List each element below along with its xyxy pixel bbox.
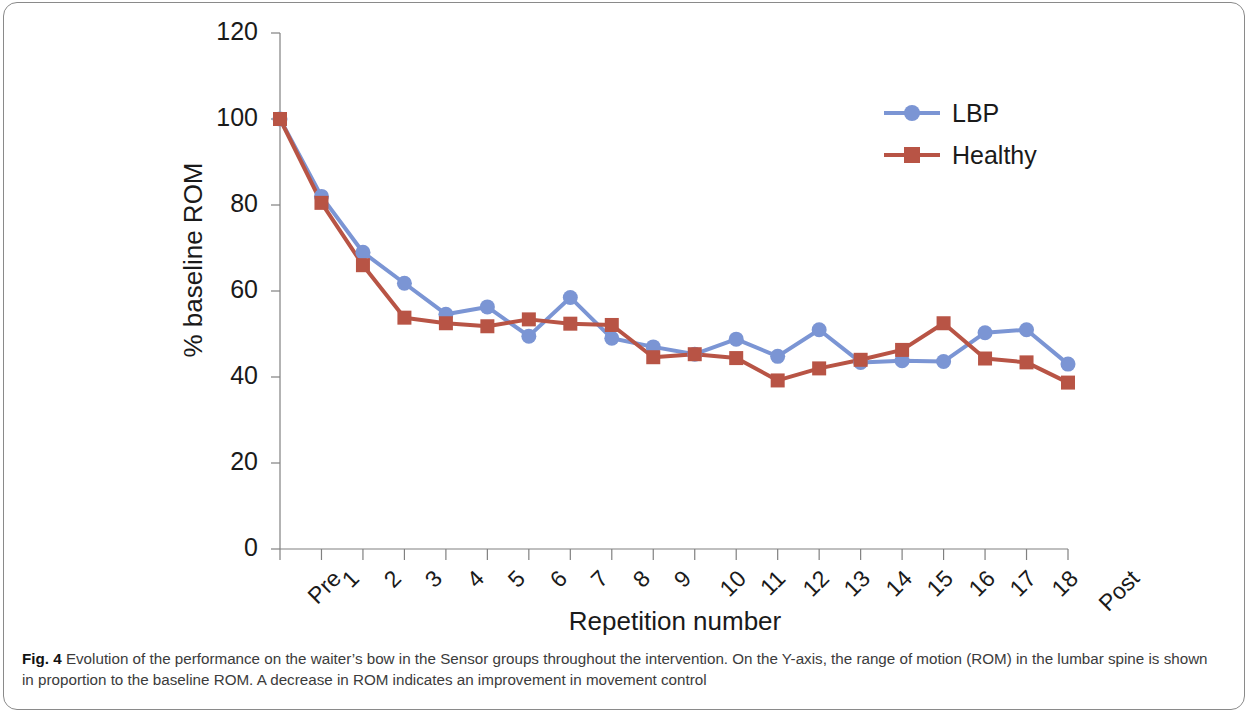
data-point-healthy xyxy=(480,319,494,333)
data-point-lbp xyxy=(604,331,619,346)
data-point-healthy xyxy=(522,312,536,326)
figure-container: 020406080100120 Pre123456789101112131415… xyxy=(0,0,1248,714)
data-point-lbp xyxy=(563,290,578,305)
figure-caption: Fig. 4 Evolution of the performance on t… xyxy=(22,648,1218,690)
legend-marker-square-icon xyxy=(904,147,920,163)
data-point-healthy xyxy=(812,361,826,375)
data-point-healthy xyxy=(439,316,453,330)
data-point-lbp xyxy=(729,332,744,347)
data-point-healthy xyxy=(729,351,743,365)
data-point-healthy xyxy=(771,373,785,387)
legend-swatch-lbp xyxy=(884,103,940,123)
data-point-healthy xyxy=(314,196,328,210)
data-point-lbp xyxy=(397,276,412,291)
y-axis-tick-label: 120 xyxy=(188,17,258,46)
legend-label: Healthy xyxy=(952,141,1037,170)
data-point-lbp xyxy=(770,349,785,364)
y-axis-title-label: % baseline ROM xyxy=(178,50,209,470)
data-point-healthy xyxy=(978,352,992,366)
legend-item-healthy[interactable]: Healthy xyxy=(884,134,1104,176)
data-point-healthy xyxy=(563,317,577,331)
data-point-lbp xyxy=(480,299,495,314)
data-point-lbp xyxy=(812,322,827,337)
figure-caption-body: Evolution of the performance on the wait… xyxy=(22,650,1208,688)
data-point-healthy xyxy=(273,112,287,126)
data-point-lbp xyxy=(978,325,993,340)
data-point-lbp xyxy=(521,329,536,344)
figure-caption-number: Fig. 4 xyxy=(22,650,62,667)
data-point-healthy xyxy=(646,350,660,364)
data-point-healthy xyxy=(688,347,702,361)
data-point-lbp xyxy=(355,245,370,260)
data-point-healthy xyxy=(1020,355,1034,369)
legend-item-lbp[interactable]: LBP xyxy=(884,92,1104,134)
data-point-healthy xyxy=(854,353,868,367)
x-axis-title: Repetition number xyxy=(280,606,1070,637)
data-point-healthy xyxy=(937,316,951,330)
data-point-healthy xyxy=(895,343,909,357)
data-point-lbp xyxy=(936,354,951,369)
data-point-lbp xyxy=(1061,357,1076,372)
data-point-healthy xyxy=(356,258,370,272)
data-point-healthy xyxy=(1061,376,1075,390)
chart-plot-area: 020406080100120 Pre123456789101112131415… xyxy=(0,0,1248,640)
data-point-healthy xyxy=(605,318,619,332)
data-point-lbp xyxy=(1019,322,1034,337)
y-axis-tick-label: 0 xyxy=(188,533,258,562)
legend-swatch-healthy xyxy=(884,145,940,165)
chart-legend: LBPHealthy xyxy=(884,92,1104,176)
legend-marker-circle-icon xyxy=(904,105,920,121)
data-point-healthy xyxy=(397,311,411,325)
legend-label: LBP xyxy=(952,99,999,128)
